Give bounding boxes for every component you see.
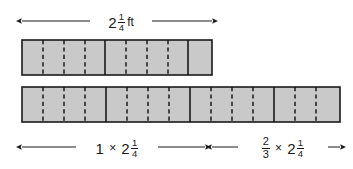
bottom-right-operator: × bbox=[275, 142, 282, 154]
bottom-right-denominator: 4 bbox=[297, 148, 304, 159]
top-label-denominator: 4 bbox=[118, 22, 125, 33]
bottom-right-factor-numerator: 2 bbox=[262, 136, 270, 147]
bottom-right-factor-fraction: 2 3 bbox=[262, 136, 270, 159]
top-measure-label: 2 1 4 ft bbox=[90, 12, 152, 32]
bottom-right-fraction: 1 4 bbox=[297, 138, 304, 158]
bottom-left-factor: 1 bbox=[96, 141, 105, 156]
bottom-right-factor-denominator: 3 bbox=[262, 148, 270, 160]
diagram-canvas: 2 1 4 ft 1 × 2 1 4 2 3 × 2 1 4 bbox=[0, 0, 353, 169]
bottom-left-numerator: 1 bbox=[131, 138, 138, 148]
bottom-right-numerator: 1 bbox=[297, 138, 304, 148]
top-label-whole: 2 bbox=[108, 15, 117, 30]
bottom-left-label: 1 × 2 1 4 bbox=[76, 138, 158, 158]
bottom-left-whole: 2 bbox=[121, 141, 130, 156]
top-label-numerator: 1 bbox=[118, 12, 125, 22]
top-label-fraction: 1 4 bbox=[118, 12, 125, 32]
bottom-right-label: 2 3 × 2 1 4 bbox=[238, 138, 328, 158]
top-label-unit: ft bbox=[127, 16, 134, 28]
bottom-right-whole: 2 bbox=[287, 141, 296, 156]
bottom-left-denominator: 4 bbox=[131, 148, 138, 159]
bottom-left-operator: × bbox=[109, 142, 116, 154]
bar-top bbox=[22, 40, 212, 75]
bottom-left-fraction: 1 4 bbox=[131, 138, 138, 158]
bar-bottom bbox=[22, 87, 340, 122]
